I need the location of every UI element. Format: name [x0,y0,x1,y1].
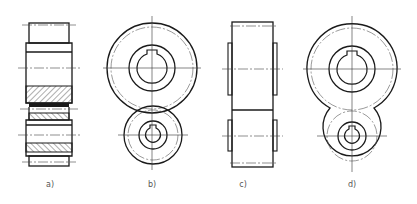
view-b-front [103,16,201,170]
label-b: b) [148,180,156,189]
label-d: d) [348,180,356,189]
view-d-front [303,16,401,172]
gear-drawings [0,0,417,204]
label-c: c) [239,180,247,189]
label-a: a) [46,180,54,189]
gear-drawing-figure: a) b) c) d) [0,0,417,204]
view-c-side [222,22,283,167]
view-a-section [18,23,80,166]
